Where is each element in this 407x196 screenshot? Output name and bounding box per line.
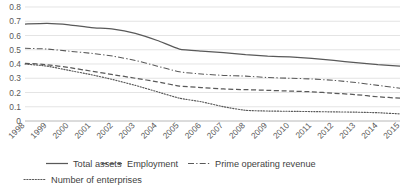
x-axis-tick-label: 2005 — [161, 120, 181, 140]
legend-item: Number of enterprises — [24, 175, 142, 185]
y-axis-tick-label: 0.4 — [9, 59, 21, 69]
x-axis-tick-label: 2004 — [139, 120, 159, 140]
y-axis-tick-label: 0.8 — [9, 2, 21, 12]
x-axis-tick-label: 2008 — [227, 120, 247, 140]
x-axis-tick-label: 2002 — [94, 120, 114, 140]
data-series-group — [25, 23, 400, 113]
x-axis-tick-label: 2000 — [50, 120, 70, 140]
x-axis-tick-label: 2007 — [205, 120, 225, 140]
x-axis-tick-label: 2010 — [271, 120, 291, 140]
x-axis-tick-label: 2012 — [315, 120, 335, 140]
x-axis-tick-label: 2014 — [359, 120, 379, 140]
x-axis-tick-label: 2006 — [183, 120, 203, 140]
chart-canvas: 00.10.20.30.40.50.60.70.8 19981999200020… — [0, 0, 407, 196]
x-axis-tick-label: 2009 — [249, 120, 269, 140]
series-line-prime-operating-revenue — [25, 48, 400, 88]
series-line-number-of-enterprises — [25, 64, 400, 114]
x-axis-tick-label: 1998 — [6, 120, 26, 140]
x-axis-tick-label: 2013 — [337, 120, 357, 140]
x-axis-tick-labels: 1998199920002001200220032004200520062007… — [6, 120, 401, 140]
legend-label: Number of enterprises — [51, 175, 142, 185]
chart-legend: Total assetsEmploymentPrime operating re… — [24, 159, 316, 185]
x-axis-tick-label: 2003 — [116, 120, 136, 140]
legend-label: Prime operating revenue — [215, 159, 316, 169]
series-line-total-assets — [25, 23, 400, 66]
x-axis-tick-label: 1999 — [28, 120, 48, 140]
x-axis-tick-label: 2011 — [293, 120, 313, 140]
legend-item: Prime operating revenue — [188, 159, 316, 169]
y-axis-tick-label: 0.5 — [9, 45, 21, 55]
y-axis-tick-label: 0.3 — [9, 73, 21, 83]
y-axis-tick-label: 0.1 — [9, 102, 21, 112]
legend-label: Employment — [127, 159, 179, 169]
y-axis-tick-labels: 00.10.20.30.40.50.60.70.8 — [9, 2, 21, 126]
line-chart: 00.10.20.30.40.50.60.70.8 19981999200020… — [0, 0, 407, 196]
x-axis-tick-label: 2001 — [72, 120, 92, 140]
y-axis-tick-label: 0.7 — [9, 16, 21, 26]
x-axis-tick-label: 2015 — [381, 120, 401, 140]
y-axis-tick-label: 0.2 — [9, 88, 21, 98]
series-line-employment — [25, 63, 400, 98]
y-axis-tick-label: 0.6 — [9, 31, 21, 41]
